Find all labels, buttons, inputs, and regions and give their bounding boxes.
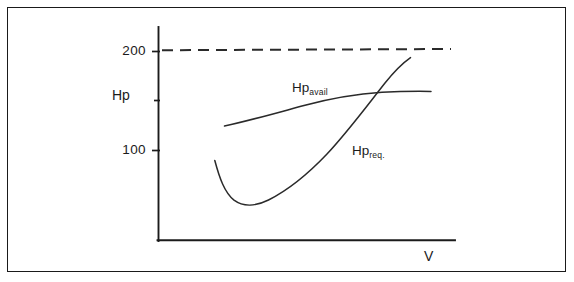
- y-tick-label-100: 100: [112, 142, 146, 157]
- x-axis-title: V: [424, 248, 433, 264]
- hp-req-label: Hpreq.: [352, 143, 385, 158]
- hp-avail-label-main: Hp: [292, 80, 309, 95]
- power-limit-dashed-line: [162, 49, 451, 50]
- y-axis-title: Hp: [112, 87, 130, 103]
- plot-drawing: [0, 0, 574, 282]
- figure-canvas: 200 100 Hp V Hpavail Hpreq.: [0, 0, 574, 282]
- y-tick-label-200: 200: [112, 43, 146, 58]
- hp-req-label-subscript: req.: [369, 150, 385, 160]
- hp-req-label-main: Hp: [352, 143, 369, 158]
- hp-avail-label-subscript: avail: [309, 87, 328, 97]
- hp-avail-label: Hpavail: [292, 80, 328, 95]
